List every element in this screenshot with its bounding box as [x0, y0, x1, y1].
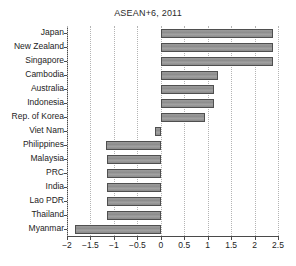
bar-row	[67, 152, 278, 166]
bar-row	[67, 124, 278, 138]
bar	[161, 85, 214, 94]
bar	[107, 155, 161, 164]
bar-row	[67, 222, 278, 236]
bar-row	[67, 68, 278, 82]
bar-row	[67, 194, 278, 208]
bar-row	[67, 40, 278, 54]
y-tick-label: India	[46, 182, 64, 191]
y-tick-mark	[64, 159, 67, 160]
x-tick-label: 2	[252, 241, 257, 250]
bar-row	[67, 138, 278, 152]
bar-row	[67, 208, 278, 222]
y-tick-mark	[64, 117, 67, 118]
bar	[161, 71, 218, 80]
bar-row	[67, 82, 278, 96]
bar-row	[67, 54, 278, 68]
y-tick-mark	[64, 173, 67, 174]
y-tick-label: Malaysia	[30, 154, 64, 163]
bar	[107, 197, 161, 206]
y-tick-mark	[64, 47, 67, 48]
x-tick-label: −1	[109, 241, 119, 250]
x-tick-label: 2.5	[272, 241, 284, 250]
bar	[75, 225, 161, 234]
bar	[161, 113, 205, 122]
x-tick-label: 1.5	[225, 241, 237, 250]
x-axis-spine	[67, 236, 278, 237]
y-tick-mark	[64, 61, 67, 62]
y-tick-mark	[64, 89, 67, 90]
plot-area	[67, 26, 278, 236]
bar-series	[67, 26, 278, 236]
y-tick-mark	[64, 229, 67, 230]
bar	[161, 99, 214, 108]
x-tick-label: 1	[205, 241, 210, 250]
bar	[161, 43, 274, 52]
y-tick-mark	[64, 131, 67, 132]
y-tick-label: New Zealand	[14, 42, 64, 51]
bar-row	[67, 96, 278, 110]
bar-row	[67, 180, 278, 194]
y-tick-label: Rep. of Korea	[12, 112, 64, 121]
x-tick-label: −2	[62, 241, 72, 250]
y-tick-mark	[64, 75, 67, 76]
y-tick-label: Australia	[31, 84, 64, 93]
y-tick-label: Philippines	[23, 140, 64, 149]
y-tick-label: Viet Nam	[29, 126, 64, 135]
bar	[107, 211, 161, 220]
y-tick-label: Indonesia	[27, 98, 64, 107]
y-tick-label: PRC	[46, 168, 64, 177]
y-tick-mark	[64, 103, 67, 104]
x-tick-label: −1.5	[82, 241, 99, 250]
x-tick-label: 0	[158, 241, 163, 250]
y-tick-label: Singapore	[25, 56, 64, 65]
bar	[107, 169, 161, 178]
y-tick-label: Thailand	[31, 210, 64, 219]
y-tick-mark	[64, 201, 67, 202]
y-tick-mark	[64, 187, 67, 188]
chart-title: ASEAN+6, 2011	[0, 8, 296, 18]
bar	[161, 29, 274, 38]
y-tick-mark	[64, 145, 67, 146]
bar-row	[67, 166, 278, 180]
bar-row	[67, 110, 278, 124]
bar-row	[67, 26, 278, 40]
y-tick-label: Myanmar	[29, 224, 64, 233]
bar	[155, 127, 161, 136]
bar	[161, 57, 274, 66]
y-tick-mark	[64, 33, 67, 34]
x-tick-label: −0.5	[129, 241, 146, 250]
gridline	[278, 26, 279, 236]
bar	[107, 183, 161, 192]
y-tick-label: Cambodia	[25, 70, 64, 79]
bar	[106, 141, 160, 150]
y-tick-label: Japan	[41, 28, 64, 37]
x-tick-label: 0.5	[178, 241, 190, 250]
y-tick-mark	[64, 215, 67, 216]
y-tick-label: Lao PDR	[30, 196, 65, 205]
chart-figure: ASEAN+6, 2011 JapanNew ZealandSingaporeC…	[0, 0, 296, 266]
